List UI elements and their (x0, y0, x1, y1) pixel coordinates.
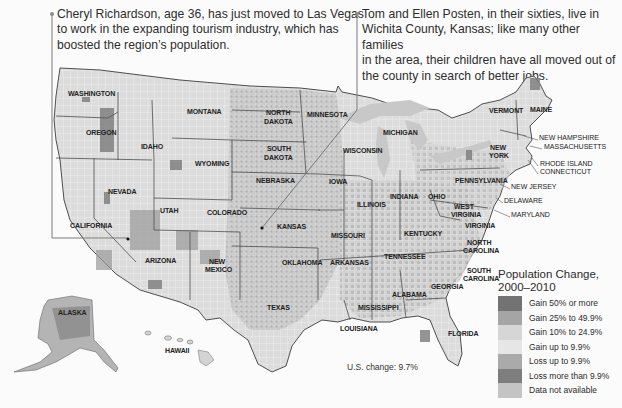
state-label: FLORIDA (448, 330, 478, 337)
state-label: DELAWARE (504, 197, 543, 204)
state-label: MARYLAND (511, 211, 550, 218)
legend-item: Data not available (498, 383, 609, 398)
legend-swatch (498, 311, 522, 326)
state-label: IDAHO (141, 143, 164, 150)
state-label: UTAH (160, 207, 179, 214)
callout-dot-posten-start (355, 12, 359, 16)
state-label: MAINE (530, 106, 552, 113)
state-label: DAKOTA (264, 154, 293, 161)
state-label: WASHINGTON (68, 90, 115, 97)
state-label: COLORADO (207, 209, 248, 216)
legend-item: Gain 10% to 24.9% (498, 325, 609, 340)
state-label: NEVADA (108, 188, 136, 195)
state-label: KANSAS (277, 223, 306, 230)
legend-swatch (498, 383, 522, 398)
state-label: ARKANSAS (330, 259, 369, 266)
state-label: YORK (489, 152, 509, 159)
state-label: NORTH (266, 109, 290, 116)
legend-swatch (498, 369, 522, 384)
legend-label: Gain 25% to 49.9% (529, 313, 602, 323)
state-label: RHODE ISLAND (540, 160, 593, 167)
las-vegas-marker (126, 237, 129, 240)
state-label: MASSACHUSETTS (544, 143, 607, 150)
state-label: CONNECTICUT (540, 168, 592, 175)
legend-item: Gain 25% to 49.9% (498, 311, 609, 326)
legend-item: Gain 50% or more (498, 296, 609, 311)
state-label: NEW JERSEY (511, 183, 557, 190)
state-label: NORTH (467, 239, 491, 246)
state-label: CALIFORNIA (70, 222, 112, 229)
state-label: TEXAS (267, 304, 290, 311)
legend-swatch (498, 354, 522, 369)
state-label: MEXICO (205, 266, 233, 273)
state-label: OREGON (86, 129, 117, 136)
state-label: MINNESOTA (307, 111, 348, 118)
state-label: OKLAHOMA (282, 259, 322, 266)
legend-label: Gain 50% or more (529, 298, 598, 308)
state-label: NEW (209, 258, 226, 265)
legend-item: Loss more than 9.9% (498, 369, 609, 384)
state-label: GEORGIA (431, 283, 463, 290)
legend-label: Gain up to 9.9% (529, 342, 590, 352)
state-label: WYOMING (195, 160, 230, 167)
legend-item: Loss up to 9.9% (498, 354, 609, 369)
state-label: NEW HAMPSHIRE (539, 134, 599, 141)
state-label: IOWA (329, 178, 347, 185)
state-label: VERMONT (489, 107, 524, 114)
legend-label: Data not available (529, 385, 597, 395)
state-label: NEBRASKA (256, 177, 295, 184)
state-label: ALABAMA (392, 291, 427, 298)
state-label: MISSOURI (331, 232, 365, 239)
legend-swatch (498, 296, 522, 311)
legend-label: Loss up to 9.9% (529, 356, 590, 366)
legend: Population Change, 2000–2010 Gain 50% or… (498, 268, 609, 398)
state-label: CAROLINA (463, 247, 499, 254)
state-label: ARIZONA (145, 257, 176, 264)
legend-label: Gain 10% to 24.9% (529, 327, 602, 337)
state-label: OHIO (428, 193, 446, 200)
state-label: WEST (454, 203, 475, 210)
legend-label: Loss more than 9.9% (529, 371, 609, 381)
us-change-note: U.S. change: 9.7% (347, 362, 418, 372)
state-label: INDIANA (390, 193, 419, 200)
state-label: ILLINOIS (357, 201, 386, 208)
state-label: TENNESSEE (384, 253, 426, 260)
state-label: LOUISIANA (340, 325, 378, 332)
state-label: NEW (490, 144, 507, 151)
state-label: MICHIGAN (383, 129, 418, 136)
callout-dot-cheryl-start (50, 12, 54, 16)
lower-48 (54, 68, 552, 372)
legend-swatch (498, 325, 522, 340)
state-label: SOUTH (467, 267, 491, 274)
state-label: HAWAII (165, 347, 189, 354)
state-label: ALASKA (58, 309, 87, 316)
state-label: MONTANA (187, 108, 222, 115)
state-label: VIRGINIA (451, 211, 481, 218)
state-label: SOUTH (267, 145, 291, 152)
state-label: PENNSYLVANIA (455, 177, 508, 184)
state-label: VIRGINIA (465, 222, 495, 229)
wichita-county-marker (260, 226, 263, 229)
state-label: WISCONSIN (343, 147, 383, 154)
state-label: KENTUCKY (404, 230, 443, 237)
legend-title: Population Change, 2000–2010 (498, 268, 609, 293)
legend-swatch (498, 340, 522, 355)
state-label: CAROLINA (463, 275, 499, 282)
state-label: DAKOTA (264, 118, 293, 125)
state-label: MISSISSIPPI (358, 304, 399, 311)
legend-item: Gain up to 9.9% (498, 340, 609, 355)
